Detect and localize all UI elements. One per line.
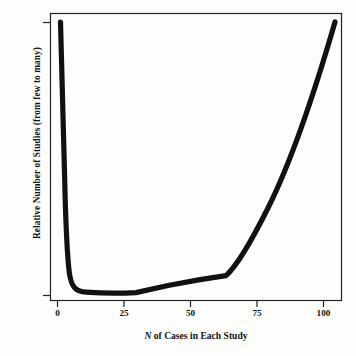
x-axis-title-rest: of Cases in Each Study xyxy=(151,330,247,341)
y-axis-title: Relative Number of Studies (from few to … xyxy=(26,0,48,288)
x-tick-label-50: 50 xyxy=(186,308,195,318)
chart-canvas xyxy=(0,0,356,356)
distribution-curve xyxy=(61,22,336,293)
x-tick-marks xyxy=(58,301,324,308)
x-tick-label-25: 25 xyxy=(119,308,128,318)
x-axis-title: N of Cases in Each Study xyxy=(50,330,342,341)
x-tick-label-100: 100 xyxy=(317,308,331,318)
plot-frame xyxy=(51,14,342,301)
chart-figure: 0 25 50 75 100 Relative Number of Studie… xyxy=(0,0,356,356)
x-tick-label-0: 0 xyxy=(55,308,60,318)
x-tick-label-75: 75 xyxy=(252,308,261,318)
